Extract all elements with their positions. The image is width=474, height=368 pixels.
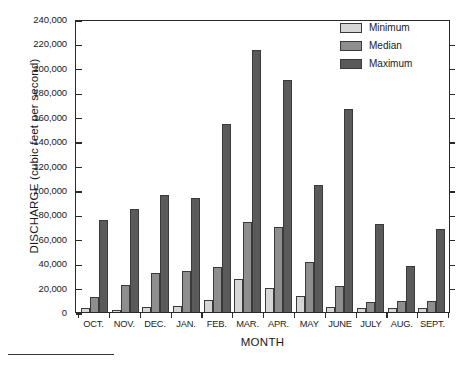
bar-maximum-oct bbox=[99, 220, 108, 312]
y-tick-label: 60,000 bbox=[39, 234, 67, 245]
y-tick-mark-right bbox=[449, 167, 455, 168]
legend-swatch-maximum bbox=[340, 59, 362, 69]
legend-swatch-minimum bbox=[340, 23, 362, 33]
bar-minimum-june bbox=[326, 307, 335, 312]
y-tick-label: 20,000 bbox=[39, 283, 67, 294]
bar-group bbox=[294, 21, 325, 312]
y-tick-mark-right bbox=[449, 191, 455, 192]
x-label-dec: DEC. bbox=[140, 319, 171, 333]
bar-minimum-mar bbox=[234, 279, 243, 312]
x-label-may: MAY bbox=[294, 319, 325, 333]
bar-maximum-june bbox=[344, 109, 353, 312]
bar-minimum-feb bbox=[204, 300, 213, 312]
bar-median-july bbox=[366, 302, 375, 312]
bar-median-sept bbox=[427, 301, 436, 312]
legend-label-maximum: Maximum bbox=[369, 58, 412, 69]
y-tick-mark-right bbox=[449, 69, 455, 70]
bar-maximum-dec bbox=[160, 195, 169, 312]
legend-label-median: Median bbox=[369, 40, 402, 51]
legend-item-median: Median bbox=[340, 40, 412, 51]
bar-median-jan bbox=[182, 271, 191, 313]
x-label-july: JULY bbox=[355, 319, 386, 333]
bar-median-may bbox=[305, 262, 314, 312]
x-label-june: JUNE bbox=[325, 319, 356, 333]
bar-minimum-sept bbox=[418, 308, 427, 312]
bar-maximum-may bbox=[314, 185, 323, 312]
x-tick bbox=[171, 313, 172, 318]
bar-median-apr bbox=[274, 227, 283, 312]
bar-maximum-mar bbox=[252, 50, 261, 312]
bar-maximum-aug bbox=[406, 266, 415, 312]
bar-minimum-oct bbox=[81, 308, 90, 312]
bar-group bbox=[110, 21, 141, 312]
discharge-bar-chart: DISCHARGE (cubic feet per second) 240,00… bbox=[0, 0, 474, 368]
x-tick bbox=[417, 313, 418, 318]
bar-maximum-apr bbox=[283, 80, 292, 312]
x-axis-title: MONTH bbox=[75, 336, 450, 348]
bar-group bbox=[232, 21, 263, 312]
bar-maximum-nov bbox=[130, 209, 139, 312]
legend-item-maximum: Maximum bbox=[340, 58, 412, 69]
bar-minimum-aug bbox=[388, 308, 397, 312]
bar-group bbox=[202, 21, 233, 312]
bar-median-june bbox=[335, 286, 344, 312]
y-tick-label: 40,000 bbox=[39, 258, 67, 269]
x-tick bbox=[386, 313, 387, 318]
x-tick bbox=[325, 313, 326, 318]
y-tick-mark-right bbox=[449, 240, 455, 241]
bar-maximum-sept bbox=[436, 229, 445, 312]
x-tick bbox=[78, 313, 79, 318]
y-tick-mark-right bbox=[449, 45, 455, 46]
bar-group bbox=[263, 21, 294, 312]
x-label-feb: FEB. bbox=[201, 319, 232, 333]
y-tick-mark-right bbox=[449, 118, 455, 119]
x-tick bbox=[232, 313, 233, 318]
x-label-apr: APR. bbox=[263, 319, 294, 333]
bar-median-mar bbox=[243, 222, 252, 312]
x-label-nov: NOV. bbox=[109, 319, 140, 333]
bar-median-feb bbox=[213, 267, 222, 312]
bar-minimum-may bbox=[296, 296, 305, 312]
y-tick-mark-right bbox=[449, 94, 455, 95]
x-label-sept: SEPT. bbox=[417, 319, 448, 333]
bar-minimum-dec bbox=[142, 307, 151, 312]
y-tick-mark-right bbox=[449, 216, 455, 217]
bar-minimum-july bbox=[357, 308, 366, 312]
bar-median-oct bbox=[90, 297, 99, 312]
bar-group bbox=[79, 21, 110, 312]
bar-group bbox=[140, 21, 171, 312]
x-label-jan: JAN. bbox=[170, 319, 201, 333]
bar-group bbox=[171, 21, 202, 312]
bar-minimum-nov bbox=[112, 310, 121, 312]
bar-maximum-feb bbox=[222, 124, 231, 312]
x-tick bbox=[109, 313, 110, 318]
legend-item-minimum: Minimum bbox=[340, 22, 412, 33]
x-tick bbox=[356, 313, 357, 318]
y-tick-label: 80,000 bbox=[39, 209, 67, 220]
x-tick bbox=[201, 313, 202, 318]
x-tick bbox=[448, 313, 449, 318]
bar-median-aug bbox=[397, 301, 406, 312]
bar-group bbox=[416, 21, 447, 312]
x-tick bbox=[263, 313, 264, 318]
y-tick-mark-right bbox=[449, 265, 455, 266]
y-axis-title: DISCHARGE (cubic feet per second) bbox=[28, 26, 40, 286]
bar-maximum-july bbox=[375, 224, 384, 312]
y-tick-label: 240,000 bbox=[33, 14, 67, 25]
x-tick bbox=[294, 313, 295, 318]
bar-minimum-jan bbox=[173, 306, 182, 312]
chart-legend: MinimumMedianMaximum bbox=[340, 22, 412, 69]
y-tick-mark-right bbox=[449, 142, 455, 143]
bar-median-nov bbox=[121, 285, 130, 312]
legend-swatch-median bbox=[340, 41, 362, 51]
bar-maximum-jan bbox=[191, 198, 200, 312]
x-label-oct: OCT. bbox=[78, 319, 109, 333]
y-tick-label: 0 bbox=[62, 307, 67, 318]
x-label-mar: MAR. bbox=[232, 319, 263, 333]
legend-label-minimum: Minimum bbox=[369, 22, 410, 33]
x-label-aug: AUG. bbox=[386, 319, 417, 333]
x-tick bbox=[140, 313, 141, 318]
x-axis-labels: OCT.NOV.DEC.JAN.FEB.MAR.APR.MAYJUNEJULYA… bbox=[75, 319, 450, 333]
footer-rule bbox=[8, 354, 114, 355]
bar-minimum-apr bbox=[265, 288, 274, 312]
